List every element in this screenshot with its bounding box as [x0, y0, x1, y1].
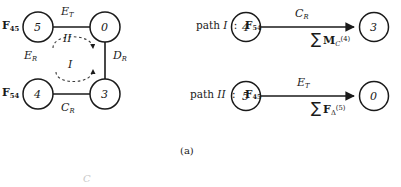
edge-label-DR-sub: R [122, 55, 127, 63]
node-label-3: 3 [101, 89, 108, 100]
path-I-colon: : [234, 19, 238, 31]
node-label-0: 0 [101, 22, 108, 33]
edge-label-ET: ET [61, 6, 74, 18]
path-I-prefix: path I : [196, 20, 237, 31]
edge-label-ER: ER [24, 50, 37, 62]
path-I-label-below: ∑MC(4) [311, 32, 350, 47]
edge-label-DR: DR [113, 50, 127, 62]
summation-icon: ∑ [311, 30, 321, 48]
next-figure-partial-glyph: C [83, 174, 91, 184]
edge-label-DR-base: D [113, 49, 122, 62]
path-II-label-below-base: F [323, 103, 331, 116]
path-I-roman: I [223, 19, 227, 31]
path-I-label-above-sub: R [303, 13, 308, 21]
edge-label-ER-base: E [24, 49, 32, 62]
path-II-node-from-label: 5 [242, 91, 249, 102]
node-tag-F45: F45 [2, 20, 19, 32]
path-II-label-above: ET [297, 77, 310, 89]
node-label-5: 5 [34, 22, 41, 33]
path-II-prefix-word: path [190, 88, 214, 100]
path-II-node-to-label: 0 [370, 91, 377, 102]
path-I-label-below-sup: (4) [341, 35, 351, 43]
node-tag-F54-base: F [2, 86, 10, 99]
edge-label-ET-base: E [61, 5, 69, 18]
path-I-label-below-base: M [323, 34, 335, 47]
path-II-roman: II [217, 88, 225, 100]
edge-label-ET-sub: T [69, 11, 74, 19]
path-I-node-from-label: 4 [242, 22, 249, 33]
node-tag-F45-sub: 45 [10, 25, 19, 33]
edge-label-ER-sub: R [32, 55, 37, 63]
path-II-label-below-sup: (5) [336, 104, 346, 112]
path-II-label-above-sub: T [305, 82, 310, 90]
path-II-label-above-base: E [297, 76, 305, 89]
path-I-prefix-word: path [196, 19, 220, 31]
path-I-tag-sub: 54 [252, 24, 261, 32]
loop-label-I: I [68, 59, 72, 70]
edge-label-CR-sub: R [69, 107, 74, 115]
node-tag-F45-base: F [2, 19, 10, 32]
path-II-colon: : [232, 88, 236, 100]
node-tag-F54: F54 [2, 87, 19, 99]
node-tag-F54-sub: 54 [10, 92, 19, 100]
loop-arrow-II [53, 37, 93, 48]
summation-icon-2: ∑ [311, 99, 321, 117]
path-I-node-to-label: 3 [370, 22, 377, 33]
figure-panel-a: 5 0 4 3 F45 F54 ET DR CR ER II I path I … [0, 0, 401, 187]
path-II-prefix: path II : [190, 89, 236, 100]
path-II-label-below: ∑FΔ(5) [311, 101, 346, 116]
loop-label-II: II [63, 33, 72, 44]
node-label-4: 4 [34, 89, 41, 100]
path-I-label-above: CR [295, 8, 309, 20]
edge-label-CR: CR [61, 102, 75, 114]
path-II-tag-sub: 45 [252, 93, 261, 101]
figure-caption: (a) [180, 146, 194, 156]
loop-arrow-I [56, 70, 93, 82]
